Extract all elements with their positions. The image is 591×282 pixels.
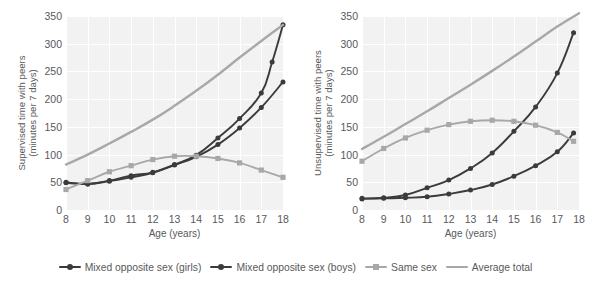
chart-panel-supervised: Supervised time with peers (minutes per … (0, 0, 295, 252)
data-point-marker (381, 146, 386, 151)
data-point-marker (555, 71, 560, 76)
data-point-marker (172, 154, 177, 159)
gridline-vertical (579, 16, 580, 210)
y-tick-label: 150 (340, 121, 358, 132)
data-point-marker (194, 154, 199, 159)
data-point-marker (571, 30, 576, 35)
y-tick-label: 100 (44, 149, 62, 160)
x-tick-label: 15 (508, 213, 520, 225)
data-point-marker (85, 178, 90, 183)
data-point-marker (281, 79, 286, 84)
series-mixed-opposite-sex-girls (360, 30, 577, 201)
data-point-marker (511, 129, 516, 134)
legend-item-2[interactable]: Same sex (365, 262, 437, 273)
x-tick-label: 16 (234, 213, 246, 225)
x-axis-title-left: Age (years) (66, 228, 283, 239)
data-point-marker (215, 142, 220, 147)
legend-marker-line-icon (446, 262, 468, 273)
data-point-marker (468, 166, 473, 171)
x-tick-label: 11 (422, 213, 433, 225)
x-tick-label: 17 (255, 213, 267, 225)
chart-legend: Mixed opposite sex (girls)Mixed opposite… (0, 256, 591, 278)
x-axis-title-right: Age (years) (362, 228, 579, 239)
data-point-marker (490, 150, 495, 155)
series-line (66, 82, 283, 184)
x-tick-label: 13 (465, 213, 477, 225)
x-tick-label: 17 (551, 213, 563, 225)
data-point-marker (571, 130, 576, 135)
y-tick-label: 0 (352, 205, 358, 216)
data-point-marker (490, 118, 495, 123)
series-layer-left (66, 16, 283, 210)
x-axis-ticklabels-right: 89101112131415161718 (362, 213, 579, 229)
data-point-marker (425, 194, 430, 199)
data-point-marker (215, 156, 220, 161)
data-point-marker (64, 180, 69, 185)
y-tick-label: 350 (340, 11, 358, 22)
x-tick-label: 8 (359, 213, 365, 225)
y-axis-ticklabels-right: 050100150200250300350 (326, 0, 358, 226)
data-point-marker (107, 169, 112, 174)
legend-item-1[interactable]: Mixed opposite sex (boys) (210, 262, 356, 273)
x-tick-label: 12 (147, 213, 159, 225)
x-tick-label: 13 (169, 213, 181, 225)
legend-label: Same sex (391, 262, 437, 273)
x-axis-ticklabels-left: 89101112131415161718 (66, 213, 283, 229)
data-point-marker (259, 167, 264, 172)
data-point-marker (403, 195, 408, 200)
x-tick-label: 16 (530, 213, 542, 225)
y-axis-ticklabels-left: 050100150200250300350 (30, 0, 62, 226)
data-point-marker (63, 187, 68, 192)
data-point-marker (555, 149, 560, 154)
data-point-marker (259, 91, 264, 96)
y-tick-label: 350 (44, 11, 62, 22)
data-point-marker (511, 174, 516, 179)
data-point-marker (425, 185, 430, 190)
data-point-marker (468, 119, 473, 124)
series-layer-right (362, 16, 579, 210)
data-point-marker (107, 179, 112, 184)
data-point-marker (468, 188, 473, 193)
data-point-marker (129, 175, 134, 180)
data-point-marker (150, 170, 155, 175)
series-same-sex (359, 118, 576, 164)
data-point-marker (280, 175, 285, 180)
legend-item-3[interactable]: Average total (446, 262, 533, 273)
data-point-marker (129, 163, 134, 168)
data-point-marker (425, 128, 430, 133)
x-tick-label: 14 (190, 213, 202, 225)
data-point-marker (555, 130, 560, 135)
data-point-marker (359, 159, 364, 164)
data-point-marker (150, 157, 155, 162)
data-point-marker (533, 104, 538, 109)
legend-marker-square-icon (365, 262, 387, 273)
x-tick-label: 18 (277, 213, 289, 225)
series-line (66, 25, 283, 165)
y-tick-label: 250 (340, 66, 358, 77)
data-point-marker (360, 196, 365, 201)
series-mixed-opposite-sex-boys (64, 79, 286, 186)
data-point-marker (446, 122, 451, 127)
plot-area-left (66, 16, 283, 210)
y-tick-label: 200 (340, 94, 358, 105)
series-average-total (66, 25, 283, 165)
gridline-vertical (283, 16, 284, 210)
series-line (66, 156, 283, 190)
legend-item-0[interactable]: Mixed opposite sex (girls) (59, 262, 202, 273)
data-point-marker (237, 160, 242, 165)
x-tick-label: 9 (85, 213, 91, 225)
legend-marker-circle-icon (59, 262, 81, 273)
chart-panel-unsupervised: Unsupervised time with peers (minutes pe… (296, 0, 591, 252)
y-tick-label: 300 (44, 38, 62, 49)
data-point-marker (511, 119, 516, 124)
series-line (362, 120, 574, 161)
y-tick-label: 300 (340, 38, 358, 49)
series-mixed-opposite-sex-boys (360, 130, 577, 201)
y-tick-label: 50 (50, 177, 62, 188)
x-tick-label: 9 (381, 213, 387, 225)
x-tick-label: 10 (104, 213, 116, 225)
data-point-marker (403, 135, 408, 140)
data-point-marker (381, 196, 386, 201)
data-point-marker (259, 105, 264, 110)
data-point-marker (237, 125, 242, 130)
